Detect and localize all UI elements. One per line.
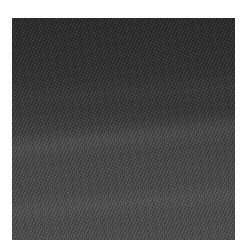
texture-photo — [12, 18, 235, 240]
texture-grain — [12, 18, 235, 240]
